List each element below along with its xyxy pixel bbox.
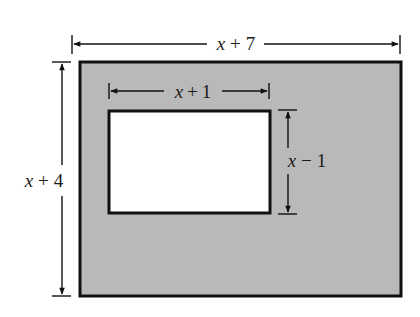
rectangle-area-diagram: x+7 x+4 x+1 x−1 xyxy=(0,0,420,317)
inner-rectangle xyxy=(109,111,270,213)
inner-height-label: x−1 xyxy=(287,150,327,171)
inner-width-label: x+1 xyxy=(174,81,212,102)
outer-height-dimension: x+4 xyxy=(24,62,71,296)
outer-height-label: x+4 xyxy=(24,170,64,191)
outer-width-label: x+7 xyxy=(216,33,256,54)
outer-width-dimension: x+7 xyxy=(72,33,400,54)
